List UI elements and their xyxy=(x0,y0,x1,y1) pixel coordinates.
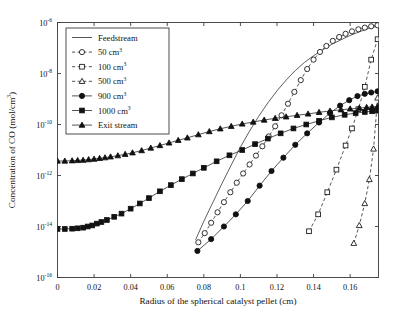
data-point xyxy=(196,240,201,245)
data-point xyxy=(94,221,99,226)
data-point xyxy=(234,180,239,185)
data-point xyxy=(311,57,316,62)
data-point xyxy=(305,131,310,136)
y-axis-label: Concentration of CO (mol/cm3) xyxy=(6,92,17,208)
data-point xyxy=(355,93,360,98)
data-point xyxy=(90,223,95,228)
x-tick-label: 0.04 xyxy=(123,283,137,292)
legend-marker xyxy=(80,64,85,69)
data-point xyxy=(291,126,296,131)
data-point xyxy=(228,190,233,195)
data-point xyxy=(137,201,142,206)
data-point xyxy=(278,131,283,136)
data-point xyxy=(147,196,152,201)
data-point xyxy=(317,118,322,123)
y-tick-label: 10-14 xyxy=(36,221,52,231)
data-point xyxy=(362,84,367,89)
data-point xyxy=(317,49,322,54)
data-point xyxy=(337,103,342,108)
x-axis-label: Radius of the spherical catalyst pellet … xyxy=(139,296,296,306)
legend: Feedstream50 cm3100 cm3500 cm3900 cm3100… xyxy=(66,28,169,134)
legend-label: 100 cm3 xyxy=(98,61,127,71)
data-point xyxy=(260,144,265,149)
data-point xyxy=(347,98,352,103)
data-point xyxy=(375,37,380,42)
data-point xyxy=(119,211,124,216)
data-point xyxy=(233,212,238,217)
data-point xyxy=(209,237,214,242)
x-tick-label: 0.14 xyxy=(306,283,320,292)
data-point xyxy=(375,89,380,94)
legend-label: 50 cm3 xyxy=(98,47,122,57)
y-tick-label: 10-6 xyxy=(39,17,52,27)
data-point xyxy=(128,206,133,211)
data-point xyxy=(221,200,226,205)
data-point xyxy=(356,27,361,32)
data-point xyxy=(298,78,303,83)
series-line xyxy=(354,98,378,243)
data-point xyxy=(269,168,274,173)
data-point xyxy=(85,224,90,229)
series-line xyxy=(309,39,378,231)
chart-canvas: 00.020.040.060.080.10.120.140.1610-610-8… xyxy=(0,0,400,329)
data-point xyxy=(307,229,312,234)
x-tick-label: 0.16 xyxy=(343,283,357,292)
x-tick-label: 0.02 xyxy=(87,283,101,292)
data-point xyxy=(325,190,330,195)
data-point xyxy=(304,122,309,127)
data-point xyxy=(330,115,335,120)
data-point xyxy=(221,224,226,229)
data-point xyxy=(55,227,60,232)
data-point xyxy=(241,171,246,176)
data-point xyxy=(257,183,262,188)
data-point xyxy=(369,24,374,29)
data-point xyxy=(281,155,286,160)
data-point xyxy=(353,111,358,116)
y-tick-label: 10-12 xyxy=(36,170,52,180)
data-point xyxy=(195,248,200,253)
data-point xyxy=(362,25,367,30)
y-tick-label: 10-8 xyxy=(39,68,52,78)
data-point xyxy=(191,171,196,176)
data-point xyxy=(227,153,232,158)
data-point xyxy=(367,176,373,181)
data-point xyxy=(370,109,375,114)
series-100-cm3 xyxy=(307,37,380,234)
data-point xyxy=(214,159,219,164)
data-point xyxy=(342,112,347,117)
data-point xyxy=(215,210,220,215)
data-point xyxy=(158,189,163,194)
data-point xyxy=(334,167,339,172)
data-point xyxy=(350,126,355,131)
legend-label: Exit stream xyxy=(98,120,138,130)
data-point xyxy=(362,110,367,115)
data-point xyxy=(265,136,270,141)
data-point xyxy=(81,225,86,230)
data-point xyxy=(62,227,67,232)
data-point xyxy=(375,95,381,100)
data-point xyxy=(75,226,80,231)
data-point xyxy=(343,31,348,36)
data-point xyxy=(273,124,278,129)
data-point xyxy=(292,89,297,94)
data-point xyxy=(375,103,381,108)
x-tick-label: 0.06 xyxy=(160,283,174,292)
data-point xyxy=(180,177,185,182)
legend-label: 1000 cm3 xyxy=(98,105,131,115)
data-point xyxy=(105,218,110,223)
data-point xyxy=(293,142,298,147)
legend-marker xyxy=(79,93,84,98)
x-tick-label: 0.1 xyxy=(235,283,245,292)
legend-label: 900 cm3 xyxy=(98,91,127,101)
data-point xyxy=(55,158,61,163)
data-point xyxy=(285,101,290,106)
y-tick-label: 10-16 xyxy=(36,272,52,282)
data-point xyxy=(349,29,354,34)
series-500-cm3 xyxy=(351,95,380,245)
data-point xyxy=(70,226,75,231)
data-point xyxy=(330,38,335,43)
x-tick-label: 0.12 xyxy=(270,283,284,292)
data-point xyxy=(324,43,329,48)
series-line xyxy=(196,26,379,240)
data-point xyxy=(247,162,252,167)
